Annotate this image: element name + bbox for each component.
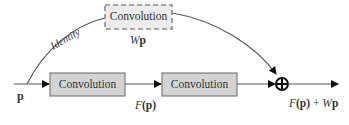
identity-convolution-label: Convolution (105, 11, 172, 23)
sum-icon (276, 78, 288, 90)
identity-output-label: Wp (130, 35, 146, 47)
residual-function-label: F(p) (135, 100, 156, 112)
convolution-2-label: Convolution (162, 79, 237, 91)
input-label: p (17, 90, 24, 102)
convolution-1-label: Convolution (50, 79, 125, 91)
identity-label: Identity (48, 26, 82, 52)
identity-skip-connection-right (172, 13, 276, 74)
output-label: F(p) + Wp (289, 98, 338, 110)
